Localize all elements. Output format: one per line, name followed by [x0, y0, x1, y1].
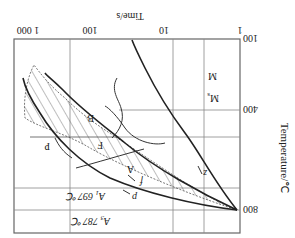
region-label-ms: Ms: [207, 91, 219, 104]
plot-frame: [14, 39, 240, 233]
pearlite-tail: [55, 138, 72, 158]
x-tick-1000: 1 000: [17, 25, 40, 36]
y-axis-title: Temperature/℃: [279, 123, 291, 193]
cct-diagram: Temperature/℃ 800 400 100 A F P B Ms M z…: [0, 0, 295, 238]
x-tick-100: 100: [83, 25, 98, 36]
curve-label-f: f: [139, 176, 143, 187]
a3-label: A3 787℃: [70, 214, 111, 227]
pearlite-curve: [112, 78, 122, 138]
curve-label-z: z: [203, 168, 208, 179]
region-label-m: M: [208, 71, 217, 82]
region-label-a: A: [126, 164, 134, 175]
curve-f-pointer: [128, 175, 135, 181]
x-axis-title: Time/s: [116, 11, 144, 22]
curve-label-p: p: [132, 192, 138, 203]
x-tick-10: 10: [159, 25, 169, 36]
region-label-b: B: [87, 113, 94, 124]
y-tick-400: 400: [243, 104, 258, 115]
x-tick-1: 1: [238, 25, 243, 36]
region-label-p: P: [44, 141, 50, 152]
y-tick-100: 100: [243, 33, 258, 44]
region-label-f: F: [97, 140, 103, 151]
y-tick-800: 800: [243, 204, 258, 215]
curve-z-pointer: [198, 166, 202, 174]
curve-p-pointer: [123, 190, 130, 194]
a1-label: A1 697℃: [65, 189, 106, 202]
